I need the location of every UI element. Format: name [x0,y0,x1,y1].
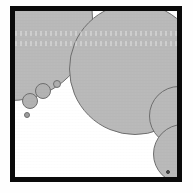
particle-small-upper [35,83,51,99]
particle-dot-bottomright [166,170,170,174]
particle-tiny-bottom [24,112,30,118]
particle-small-lower [22,93,38,109]
particle-canvas [15,11,177,177]
figure-root [0,0,193,193]
image-frame [10,6,182,182]
particle-tiny-right [53,80,61,88]
